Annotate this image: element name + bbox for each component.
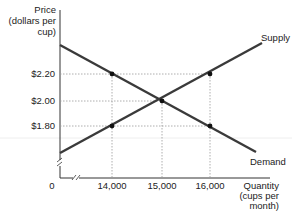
y-axis-title-line-1: Price [34, 4, 56, 15]
point-equilibrium [160, 99, 165, 104]
supply-curve [60, 43, 262, 153]
y-tick-label: $1.80 [31, 120, 55, 131]
x-tick-label: 16,000 [195, 180, 224, 191]
x-origin-label: 0 [49, 180, 54, 191]
supply-demand-chart: Price (dollars per cup) $2.20 $2.00 $1.8 [0, 0, 292, 211]
guide-lines [60, 74, 210, 178]
point-demand-14000 [110, 72, 115, 77]
point-demand-16000 [208, 124, 213, 129]
point-supply-16000 [208, 72, 213, 77]
y-axis-title-line-2: (dollars per [8, 15, 56, 26]
y-tick-label: $2.00 [31, 95, 55, 106]
supply-label: Supply [261, 32, 290, 43]
x-tick-label: 14,000 [97, 180, 126, 191]
x-axis-title-line-3: month) [249, 200, 279, 211]
x-tick-label: 15,000 [147, 180, 176, 191]
point-supply-14000 [110, 124, 115, 129]
y-tick-label: $2.20 [31, 68, 55, 79]
demand-label: Demand [250, 156, 286, 167]
y-axis-title-line-3: cup) [38, 26, 56, 37]
